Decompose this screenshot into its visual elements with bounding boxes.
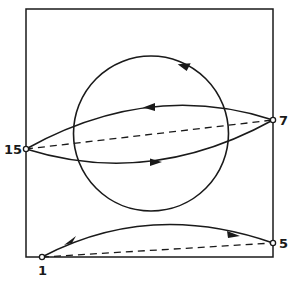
- diagram-canvas: 15 7 5 1: [0, 0, 294, 284]
- node-5: [270, 240, 275, 245]
- circle-arrow-icon: [178, 62, 192, 72]
- bottom-arc-1-to-5: [42, 225, 273, 257]
- upper-arc-7-to-15: [26, 105, 273, 149]
- node-15: [23, 146, 28, 151]
- label-node-7: 7: [279, 113, 288, 128]
- label-node-1: 1: [38, 263, 47, 278]
- boundary-frame: [26, 9, 273, 257]
- circle-path: [74, 56, 229, 211]
- label-node-15: 15: [4, 142, 22, 157]
- node-7: [270, 117, 275, 122]
- dashed-chord-1-5: [42, 243, 273, 257]
- lower-arc-15-to-7: [26, 120, 273, 163]
- label-node-5: 5: [279, 236, 288, 251]
- dashed-chord-15-7: [26, 120, 273, 149]
- node-1: [39, 254, 44, 259]
- upper-arc-arrow-icon: [143, 103, 155, 111]
